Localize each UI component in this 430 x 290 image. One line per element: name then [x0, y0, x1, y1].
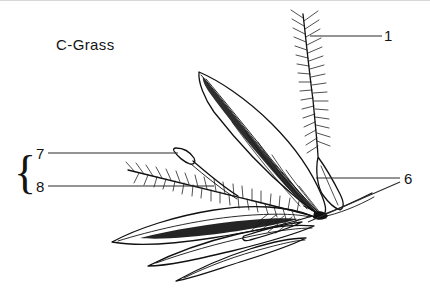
grouping-brace: {: [14, 147, 36, 198]
callout-label-1: 6: [404, 170, 412, 187]
figure-canvas: C-Grass: [0, 0, 430, 290]
callout-label-6: 1: [384, 27, 392, 44]
callout-label-7: 8: [36, 178, 44, 195]
club-stalk-detail: [174, 148, 238, 199]
botanical-illustration-figure: C-Grass: [0, 0, 430, 290]
plumose-awn-upper: [291, 10, 330, 156]
figure-title: C-Grass: [56, 36, 115, 53]
secondary-bract: [317, 157, 343, 210]
lower-leaf-blade-cluster: [112, 207, 314, 281]
leader-line-1-lower: [308, 182, 400, 222]
large-lanceolate-bract: [199, 72, 326, 216]
callout-label-8: 7: [36, 145, 44, 162]
